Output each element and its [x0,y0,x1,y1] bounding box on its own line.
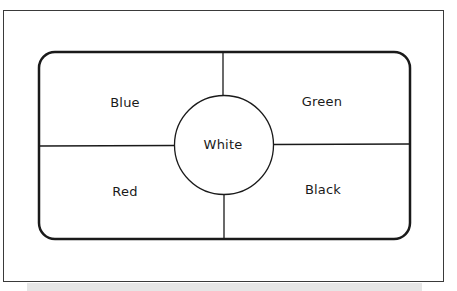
quadrant-label-blue: Blue [110,95,140,110]
quadrant-label-green: Green [302,94,342,109]
center-label-white: White [204,137,243,152]
divider-right [273,144,410,145]
divider-left [39,146,175,147]
quadrant-label-red: Red [112,184,137,199]
quadrant-label-black: Black [305,182,341,197]
